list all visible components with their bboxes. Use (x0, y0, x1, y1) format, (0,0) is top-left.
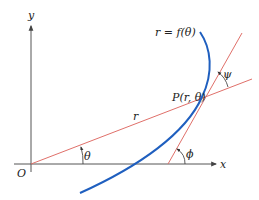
phi-label: ϕ (186, 148, 194, 161)
phi-arc (177, 149, 185, 164)
theta-arc (81, 147, 83, 164)
polar-tangent-diagram: y x O r = f(θ) P(r, θ) r θ ϕ ψ (0, 0, 259, 200)
radius-line (31, 79, 252, 164)
psi-label: ψ (223, 68, 232, 81)
polar-curve (80, 32, 210, 193)
radius-label: r (133, 110, 139, 123)
origin-label: O (17, 167, 26, 180)
x-axis-label: x (220, 158, 227, 171)
curve-label: r = f(θ) (155, 26, 196, 39)
y-axis-label: y (27, 9, 35, 22)
theta-label: θ (84, 150, 91, 163)
point-label: P(r, θ) (171, 91, 206, 104)
